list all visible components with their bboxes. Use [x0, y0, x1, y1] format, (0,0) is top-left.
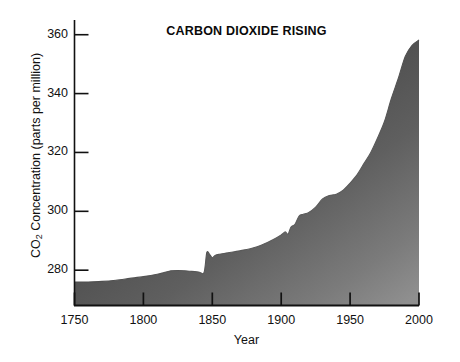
x-tick-label: 1950 [327, 314, 373, 327]
x-tick-label: 1900 [258, 314, 304, 327]
x-axis-tick-labels: 175018001850190019502000 [0, 0, 460, 362]
x-tick-label: 1800 [120, 314, 166, 327]
x-tick-label: 2000 [396, 314, 442, 327]
x-tick-label: 1850 [189, 314, 235, 327]
x-tick-label: 1750 [52, 314, 98, 327]
co2-chart-figure: CARBON DIOXIDE RISING CO2 Concentration … [0, 0, 460, 362]
